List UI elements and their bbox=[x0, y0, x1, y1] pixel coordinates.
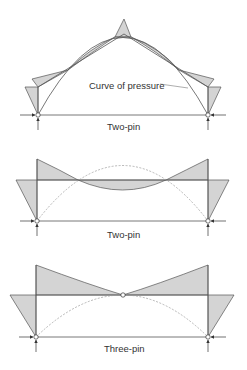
pin-right bbox=[206, 113, 210, 117]
moment-shading bbox=[25, 19, 221, 115]
diagram-canvas bbox=[0, 0, 247, 370]
diagram-two-pin-pitched bbox=[20, 19, 226, 130]
pin-crown bbox=[121, 293, 125, 297]
caption-three-pin: Three-pin bbox=[104, 344, 145, 354]
pin-left bbox=[34, 335, 38, 339]
pin-right bbox=[206, 335, 210, 339]
moment-shading bbox=[16, 159, 229, 221]
moment-shading bbox=[10, 265, 234, 337]
diagram-three-pin-flat bbox=[10, 265, 234, 352]
thrust-line-dashed bbox=[36, 295, 208, 337]
frame-outline bbox=[38, 34, 208, 115]
caption-two-pin-pitched: Two-pin bbox=[107, 122, 140, 132]
diagram-two-pin-flat bbox=[16, 159, 229, 236]
pin-right bbox=[206, 219, 210, 223]
caption-two-pin-flat: Two-pin bbox=[107, 230, 140, 240]
pin-left bbox=[35, 219, 39, 223]
portal-frame-figure: Curve of pressure Two-pin Two-pin Three-… bbox=[0, 0, 247, 370]
pin-left bbox=[36, 113, 40, 117]
curve-of-pressure-label: Curve of pressure bbox=[89, 81, 165, 91]
curve-of-pressure bbox=[38, 38, 208, 116]
